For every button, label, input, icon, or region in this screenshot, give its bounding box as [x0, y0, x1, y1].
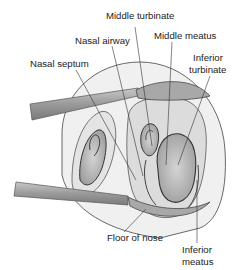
- label-middle-meatus: Middle meatus: [154, 30, 216, 41]
- label-inferior-meatus-line1: Inferior: [182, 244, 212, 255]
- label-inferior-meatus-line2: meatus: [182, 256, 213, 267]
- label-inferior-turbinate-line2: turbinate: [189, 64, 226, 75]
- inferior-turbinate-shape: [157, 134, 196, 202]
- label-floor-of-nose: Floor of nose: [107, 232, 163, 243]
- label-nasal-septum: Nasal septum: [30, 58, 89, 69]
- label-middle-turbinate: Middle turbinate: [106, 10, 174, 21]
- label-inferior-turbinate-line1: Inferior: [193, 52, 223, 63]
- label-nasal-airway: Nasal airway: [75, 35, 130, 46]
